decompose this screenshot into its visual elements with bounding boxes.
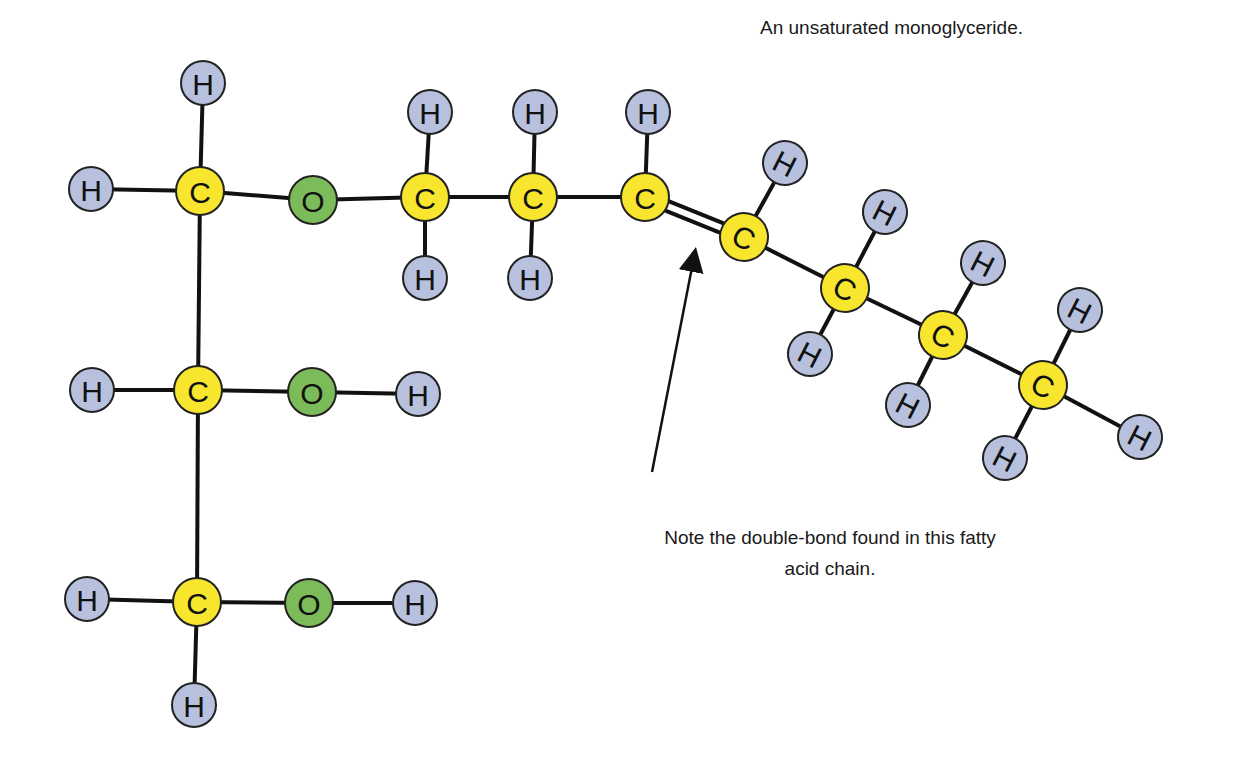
- hydrogen-atom: H: [508, 256, 552, 300]
- atom-symbol: H: [414, 263, 436, 296]
- hydrogen-atom: H: [181, 61, 225, 105]
- note-line-1: Note the double-bond found in this fatty: [600, 522, 1060, 553]
- hydrogen-atom: H: [408, 90, 452, 134]
- carbon-atom: C: [174, 366, 222, 414]
- diagram-title: An unsaturated monoglyceride.: [760, 12, 1100, 43]
- hydrogen-atom: H: [780, 324, 839, 383]
- atom-symbol: O: [300, 377, 323, 410]
- carbon-atom: C: [911, 303, 976, 368]
- atom-symbol: O: [301, 185, 324, 218]
- hydrogen-atom: H: [953, 233, 1012, 292]
- carbon-atom: C: [712, 205, 777, 270]
- atom-symbol: C: [414, 182, 436, 215]
- hydrogen-atom: H: [1050, 280, 1109, 339]
- atom-symbol: O: [297, 588, 320, 621]
- atom-symbol: C: [189, 176, 211, 209]
- hydrogen-atom: H: [396, 372, 440, 416]
- monoglyceride-diagram: HHCOCHHCHHCHCHCHHCHHCHHHHCOHHCOHH: [0, 0, 1236, 768]
- atom-symbol: H: [81, 375, 103, 408]
- hydrogen-atom: H: [755, 133, 814, 192]
- carbon-atom: C: [176, 167, 224, 215]
- atom-symbol: H: [76, 584, 98, 617]
- hydrogen-atom: H: [70, 368, 114, 412]
- hydrogen-atom: H: [69, 167, 113, 211]
- atom-symbol: H: [519, 263, 541, 296]
- hydrogen-atom: H: [855, 182, 914, 241]
- atom-symbol: H: [183, 690, 205, 723]
- atom-symbol: C: [187, 375, 209, 408]
- atom-symbol: H: [192, 68, 214, 101]
- single-bond: [197, 390, 198, 602]
- carbon-atom: C: [401, 173, 449, 221]
- hydrogen-atom: H: [1110, 407, 1169, 466]
- oxygen-atom: O: [288, 368, 336, 416]
- atom-symbol: H: [637, 97, 659, 130]
- oxygen-atom: O: [285, 579, 333, 627]
- carbon-atom: C: [173, 578, 221, 626]
- atom-symbol: C: [186, 587, 208, 620]
- carbon-atom: C: [1011, 353, 1076, 418]
- hydrogen-atom: H: [172, 683, 216, 727]
- hydrogen-atom: H: [513, 90, 557, 134]
- note-line-2: acid chain.: [600, 553, 1060, 584]
- atoms-layer: HHCOCHHCHHCHCHCHHCHHCHHHHCOHHCOHH: [65, 61, 1170, 727]
- bonds-layer: [87, 83, 1140, 705]
- double-bond-note: Note the double-bond found in this fatty…: [600, 522, 1060, 584]
- atom-symbol: C: [634, 182, 656, 215]
- atom-symbol: H: [80, 174, 102, 207]
- atom-symbol: H: [407, 379, 429, 412]
- hydrogen-atom: H: [65, 577, 109, 621]
- arrow-icon: [652, 252, 695, 472]
- hydrogen-atom: H: [403, 256, 447, 300]
- atom-symbol: C: [522, 182, 544, 215]
- atom-symbol: H: [524, 97, 546, 130]
- hydrogen-atom: H: [878, 375, 937, 434]
- atom-symbol: H: [419, 97, 441, 130]
- hydrogen-atom: H: [393, 581, 437, 625]
- hydrogen-atom: H: [975, 428, 1034, 487]
- oxygen-atom: O: [289, 176, 337, 224]
- carbon-atom: C: [509, 173, 557, 221]
- single-bond: [198, 191, 200, 390]
- double-bond-arrow: [652, 252, 695, 472]
- carbon-atom: C: [813, 256, 878, 321]
- atom-symbol: H: [404, 588, 426, 621]
- hydrogen-atom: H: [626, 90, 670, 134]
- carbon-atom: C: [621, 173, 669, 221]
